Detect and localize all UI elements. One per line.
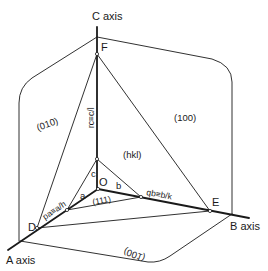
point-b [139,195,142,198]
segment-a-label: a [80,190,86,201]
a-axis-label: A axis [6,254,36,266]
point-a [65,208,68,211]
segment-c-label: c [91,168,96,179]
face-hkl-label: (hkl) [123,149,141,160]
diagram-canvas: C axis A axis B axis F O D E c a b pa≡a/… [0,0,268,271]
segment-b-label: b [116,180,121,191]
point-d-label: D [28,221,36,233]
face-010-label: (010) [35,115,60,133]
point-e [208,209,211,212]
b-axis-line [98,189,249,218]
intercept-rc-label: rc≡c/l [86,107,96,128]
plane-edge-fd [37,54,97,228]
point-f-label: F [101,41,108,53]
face-001-label: (001) [122,246,147,264]
point-o-label: O [99,176,108,188]
point-f [95,52,98,55]
c-axis-label: C axis [92,10,123,22]
point-e-label: E [212,196,219,208]
crystal-axes-diagram: C axis A axis B axis F O D E c a b pa≡a/… [0,0,268,271]
b-axis-label: B axis [230,220,260,232]
face-111-label: (111) [92,194,112,207]
face-100-label: (100) [174,112,196,123]
point-c [95,157,98,160]
